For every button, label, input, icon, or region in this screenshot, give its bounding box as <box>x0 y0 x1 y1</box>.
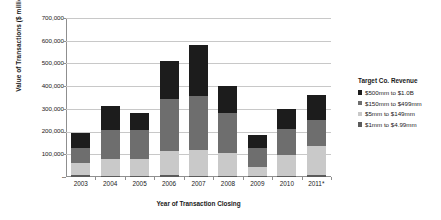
y-axis-tick-label: 500,000 <box>14 60 64 66</box>
bar-segment <box>160 61 179 98</box>
bar-segment <box>248 135 267 147</box>
bar-2003 <box>71 133 90 177</box>
bar-segment <box>101 159 120 176</box>
y-axis-tickmark <box>63 41 66 42</box>
stacked-bar-chart: Value of Transactions ($ millions) 700,0… <box>0 0 441 220</box>
legend-swatch-icon <box>358 112 362 116</box>
y-axis-tickmark <box>63 63 66 64</box>
y-axis-tickmark <box>63 132 66 133</box>
bar-2004 <box>101 106 120 177</box>
y-axis-tick-label: 100,000 <box>14 151 64 157</box>
y-axis-tick-label: 400,000 <box>14 83 64 89</box>
bar-segment <box>71 148 90 164</box>
y-axis-tick-label: 300,000 <box>14 106 64 112</box>
legend-swatch-icon <box>358 122 362 126</box>
bar-segment <box>277 129 296 155</box>
plot-area <box>66 18 331 177</box>
bar-segment <box>189 45 208 95</box>
legend-title: Target Co. Revenue <box>358 77 440 84</box>
bar-segment <box>130 159 149 175</box>
bar-2006 <box>160 61 179 177</box>
legend-item-label: $1mm to $4.99mm <box>365 121 417 128</box>
bar-segment <box>307 95 326 120</box>
bar-segment <box>101 130 120 158</box>
y-axis-tickmark <box>63 177 66 178</box>
bar-segment <box>248 176 267 177</box>
legend-item-label: $150mm to $499mm <box>365 100 422 107</box>
bar-segment <box>130 113 149 130</box>
bar-segment <box>130 130 149 159</box>
y-axis-tickmark <box>63 154 66 155</box>
y-axis-tick-labels: 700,000600,000500,000400,000300,000200,0… <box>14 0 64 220</box>
bar-2011 <box>307 95 326 177</box>
legend-item[interactable]: $5mm to $149mm <box>358 109 440 120</box>
y-axis-tick-label: 200,000 <box>14 128 64 134</box>
legend-item-list: $500mm to $1.0B$150mm to $499mm$5mm to $… <box>358 87 440 129</box>
bar-2010 <box>277 109 296 177</box>
legend-swatch-icon <box>358 101 362 105</box>
bar-segment <box>101 176 120 177</box>
legend-swatch-icon <box>358 90 362 94</box>
y-axis-tickmark <box>63 18 66 19</box>
bar-segment <box>189 150 208 176</box>
bar-segment <box>160 175 179 177</box>
legend-item[interactable]: $150mm to $499mm <box>358 98 440 109</box>
bar-segment <box>218 86 237 113</box>
legend-item-label: $500mm to $1.0B <box>365 89 414 96</box>
bar-segment <box>248 148 267 167</box>
y-axis-tickmark <box>63 86 66 87</box>
bar-segment <box>189 96 208 150</box>
legend-item[interactable]: $1mm to $4.99mm <box>358 119 440 130</box>
bar-segment <box>277 176 296 177</box>
bar-segment <box>160 151 179 176</box>
bar-segment <box>71 175 90 177</box>
bar-segment <box>101 106 120 131</box>
bar-2005 <box>130 113 149 177</box>
bar-segment <box>71 133 90 147</box>
bar-segment <box>218 113 237 153</box>
bar-segment <box>307 120 326 146</box>
y-axis-tickmark <box>63 109 66 110</box>
bar-segment <box>218 153 237 175</box>
bar-segment <box>277 155 296 175</box>
bar-segment <box>218 176 237 177</box>
y-axis-tick-label: - <box>14 174 64 180</box>
gridline <box>66 41 331 42</box>
y-axis-tick-label: 600,000 <box>14 38 64 44</box>
bar-segment <box>248 167 267 176</box>
y-axis-tick-label: 700,000 <box>14 15 64 21</box>
x-axis-title: Year of Transaction Closing <box>66 200 331 207</box>
bar-2008 <box>218 86 237 177</box>
bar-segment <box>307 146 326 174</box>
x-axis-tick-labels: 200320042005200620072008200920102011* <box>66 180 331 192</box>
bar-segment <box>130 176 149 177</box>
bar-segment <box>160 99 179 151</box>
chart-legend: Target Co. Revenue $500mm to $1.0B$150mm… <box>358 77 440 130</box>
bar-segment <box>277 109 296 129</box>
legend-item-label: $5mm to $149mm <box>365 110 415 117</box>
bar-segment <box>189 176 208 177</box>
y-axis-line <box>66 18 67 177</box>
x-axis-tick-label: 2011* <box>296 180 336 188</box>
gridline <box>66 18 331 19</box>
bar-2009 <box>248 135 267 177</box>
legend-item[interactable]: $500mm to $1.0B <box>358 87 440 98</box>
bar-segment <box>71 163 90 175</box>
bar-2007 <box>189 45 208 177</box>
bar-segment <box>307 175 326 177</box>
